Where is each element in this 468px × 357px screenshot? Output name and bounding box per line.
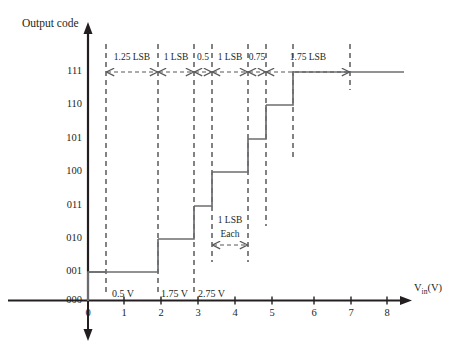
x-axis-label: Vin(V) <box>414 283 442 296</box>
voltage-label-2p75: 2.75 V <box>198 289 225 299</box>
x-tick-5: 5 <box>265 308 279 319</box>
voltage-label-1p75: 1.75 V <box>161 289 188 299</box>
x-tick-2: 2 <box>154 308 168 319</box>
y-tick-010: 010 <box>52 233 82 244</box>
segment-label-1lsb-a: 1 LSB <box>158 53 194 63</box>
segment-label-0p75: 0.75 <box>245 53 269 63</box>
y-tick-000: 000 <box>52 295 82 306</box>
segment-label-0p5: 0.5 <box>192 53 214 63</box>
segment-label-1p25lsb: 1.25 LSB <box>106 53 158 63</box>
x-tick-8: 8 <box>380 308 394 319</box>
y-tick-011: 011 <box>52 200 82 211</box>
page-title: Output code <box>22 18 79 30</box>
y-tick-100: 100 <box>52 166 82 177</box>
y-tick-111: 111 <box>52 66 82 77</box>
x-tick-0: 0 <box>81 308 95 319</box>
inner-annotation-line1: 1 LSB <box>212 215 248 226</box>
y-axis <box>84 22 93 301</box>
adc-transfer-function-figure: Output code 111 110 101 100 011 010 001 … <box>0 0 468 357</box>
voltage-label-0p5: 0.5 V <box>112 289 134 299</box>
x-tick-6: 6 <box>307 308 321 319</box>
y-tick-101: 101 <box>52 133 82 144</box>
staircase-curve <box>88 72 404 301</box>
x-tick-7: 7 <box>344 308 358 319</box>
inner-annotation-line2: Each <box>212 229 248 240</box>
x-tick-3: 3 <box>191 308 205 319</box>
segment-label-1p75lsb: 1.75 LSB <box>267 53 349 63</box>
x-axis-label-main: V <box>414 282 422 293</box>
dashed-guides <box>106 44 350 296</box>
x-axis-label-unit: (V) <box>427 282 442 293</box>
y-tick-110: 110 <box>52 99 82 110</box>
y-tick-001: 001 <box>52 266 82 277</box>
x-tick-4: 4 <box>228 308 242 319</box>
segment-label-1lsb-b: 1 LSB <box>212 53 248 63</box>
x-tick-1: 1 <box>117 308 131 319</box>
